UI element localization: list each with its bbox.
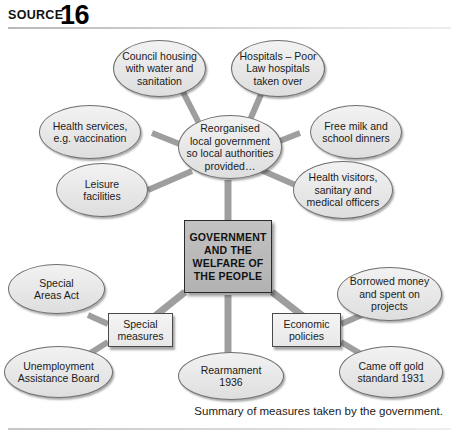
source-figure-page: SOURCE 16: [0, 0, 451, 440]
node-label: Free milk and school dinners: [317, 120, 395, 145]
node-center-government-welfare[interactable]: GOVERNMENT AND THE WELFARE OF THE PEOPLE: [184, 220, 272, 293]
connector-hub-leisure: [148, 171, 192, 190]
node-unemployment-assistance-board[interactable]: Unemployment Assistance Board: [4, 346, 113, 398]
node-label: Economic policies: [278, 318, 334, 343]
node-special-measures[interactable]: Special measures: [108, 313, 173, 347]
node-label: Special measures: [112, 318, 168, 343]
node-health-services[interactable]: Health services, e.g. vaccination: [39, 105, 141, 159]
connector-special-measures-areas-act: [88, 315, 108, 324]
node-gold-standard[interactable]: Came off gold standard 1931: [339, 346, 443, 398]
node-hospitals[interactable]: Hospitals – Poor Law hospitals taken ove…: [231, 40, 325, 97]
node-free-milk[interactable]: Free milk and school dinners: [310, 105, 402, 159]
node-label: Came off gold standard 1931: [352, 360, 429, 385]
node-council-housing[interactable]: Council housing with water and sanitatio…: [113, 40, 206, 97]
node-leisure-facilities[interactable]: Leisure facilities: [56, 163, 148, 217]
node-label: Health visitors, sanitary and medical of…: [302, 171, 385, 209]
node-health-visitors[interactable]: Health visitors, sanitary and medical of…: [293, 161, 393, 219]
node-label: GOVERNMENT AND THE WELFARE OF THE PEOPLE: [184, 231, 271, 283]
node-label: Leisure facilities: [78, 178, 125, 203]
node-label: Reorganised local government so local au…: [182, 122, 279, 172]
figure-caption: Summary of measures taken by the governm…: [0, 405, 443, 417]
node-label: Hospitals – Poor Law hospitals taken ove…: [234, 50, 321, 88]
node-label: Special Areas Act: [29, 277, 84, 302]
header-divider: [8, 27, 451, 29]
node-label: Borrowed money and spent on projects: [345, 275, 434, 313]
node-economic-policies[interactable]: Economic policies: [272, 313, 341, 347]
footer-divider: [8, 428, 451, 430]
node-special-areas-act[interactable]: Special Areas Act: [8, 264, 105, 314]
node-label: Health services, e.g. vaccination: [48, 120, 133, 145]
node-borrowed-money[interactable]: Borrowed money and spent on projects: [337, 267, 442, 321]
node-hub-local-government[interactable]: Reorganised local government so local au…: [178, 115, 282, 179]
node-label: Council housing with water and sanitatio…: [117, 50, 202, 88]
concept-map-diagram: Reorganised local government so local au…: [0, 30, 451, 410]
node-label: Unemployment Assistance Board: [13, 360, 105, 385]
node-label: Rearmament 1936: [196, 364, 267, 389]
figure-header: SOURCE 16: [0, 0, 451, 34]
node-rearmament[interactable]: Rearmament 1936: [178, 352, 284, 400]
source-label: SOURCE: [8, 8, 63, 22]
